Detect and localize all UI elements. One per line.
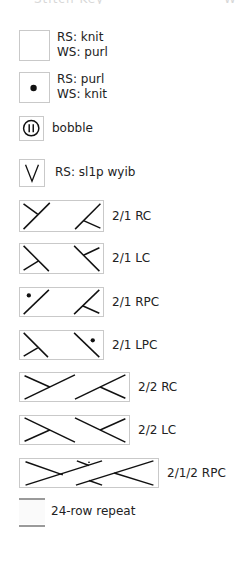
label-line: 2/1 RPC [112, 295, 159, 310]
blank-square-icon [19, 30, 50, 61]
legend-label: 2/1 LC [112, 251, 150, 266]
label-line: 2/2 LC [138, 423, 176, 438]
legend-label: 2/1 LPC [112, 338, 157, 353]
label-line: RS: knit [57, 30, 108, 45]
legend-label: 2/2 LC [138, 423, 176, 438]
label-line: RS: sl1p wyib [55, 165, 135, 180]
legend-label: 2/1 RPC [112, 295, 159, 310]
cable-2-1-rpc-icon [19, 287, 104, 317]
label-line: 24-row repeat [51, 504, 135, 519]
label-line: RS: purl [57, 72, 107, 87]
bobble-icon [19, 116, 44, 141]
label-line: 2/1 LPC [112, 338, 157, 353]
label-line: 2/1 LC [112, 251, 150, 266]
legend-label: bobble [52, 121, 93, 136]
label-line: WS: knit [57, 87, 107, 102]
legend-label: RS: purl WS: knit [57, 72, 107, 102]
repeat-bottom-line-icon [19, 525, 45, 527]
legend-label: 24-row repeat [51, 504, 135, 519]
label-line: 2/1/2 RPC [167, 466, 226, 481]
header-title-fragment: Stitch Key [34, 0, 154, 4]
cable-2-1-rc-icon [19, 200, 104, 232]
legend-label: 2/1/2 RPC [167, 466, 226, 481]
cable-2-1-2-rpc-icon [19, 458, 159, 488]
cable-2-1-lc-icon [19, 243, 104, 274]
legend-label: RS: knit WS: purl [57, 30, 108, 60]
repeat-top-line-icon [19, 498, 45, 500]
cable-2-2-rc-icon [19, 372, 130, 402]
legend-label: 2/2 RC [138, 380, 177, 395]
slip-v-icon [19, 159, 45, 187]
purl-dot-icon [19, 72, 50, 103]
cable-2-2-lc-icon [19, 415, 130, 445]
label-line: bobble [52, 121, 93, 136]
header-right-fragment: W [224, 0, 238, 4]
label-line: 2/2 RC [138, 380, 177, 395]
repeat-area [19, 500, 45, 524]
cable-2-1-lpc-icon [19, 330, 104, 360]
legend-label: 2/1 RC [112, 209, 151, 224]
label-line: 2/1 RC [112, 209, 151, 224]
label-line: WS: purl [57, 45, 108, 60]
legend-label: RS: sl1p wyib [55, 165, 135, 180]
